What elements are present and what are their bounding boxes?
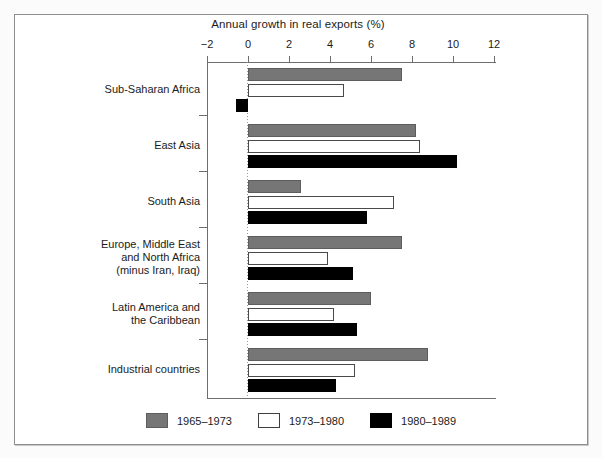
category-label: Sub-Saharan Africa (50, 83, 200, 96)
x-tick (289, 56, 290, 63)
x-tick-label: 2 (286, 38, 292, 50)
x-tick-label: 10 (447, 38, 459, 50)
plot-area: −2024681012 Sub-Saharan AfricaEast AsiaS… (0, 0, 602, 458)
chart-page: Annual growth in real exports (%) −20246… (0, 0, 602, 458)
category-label: South Asia (50, 195, 200, 208)
bar (248, 379, 336, 392)
legend-item: 1965–1973 (146, 413, 232, 428)
category-label: Europe, Middle East and North Africa (mi… (50, 238, 200, 277)
legend-item: 1980–1989 (370, 413, 456, 428)
bar (248, 84, 344, 97)
bar (248, 252, 328, 265)
x-tick (330, 56, 331, 63)
legend-swatch (146, 413, 168, 428)
bar (248, 267, 353, 280)
bar (248, 348, 428, 361)
category-label: Industrial countries (50, 363, 200, 376)
category-label: Latin America and the Caribbean (50, 301, 200, 327)
bar (248, 292, 371, 305)
bar (248, 180, 301, 193)
legend-item: 1973–1980 (258, 413, 344, 428)
x-tick-label: −2 (201, 38, 214, 50)
legend-label: 1980–1989 (401, 415, 456, 427)
legend-swatch (258, 413, 280, 428)
legend-label: 1965–1973 (177, 415, 232, 427)
category-separator-tick (199, 115, 208, 116)
x-tick-label: 8 (409, 38, 415, 50)
category-separator-tick (199, 283, 208, 284)
bar (248, 196, 394, 209)
x-tick-label: 12 (488, 38, 500, 50)
legend-label: 1973–1980 (289, 415, 344, 427)
x-tick (494, 56, 495, 63)
bar (248, 323, 357, 336)
x-tick-label: 0 (245, 38, 251, 50)
bar (248, 236, 402, 249)
bar (248, 308, 334, 321)
y-axis-line (207, 62, 208, 398)
x-tick (412, 56, 413, 63)
x-tick (453, 56, 454, 63)
category-separator-tick (199, 227, 208, 228)
category-label: East Asia (50, 139, 200, 152)
x-tick (248, 56, 249, 63)
plot-bottom-rule (207, 398, 496, 399)
bar (248, 140, 420, 153)
bar (248, 211, 367, 224)
bar (248, 124, 416, 137)
category-separator-tick (199, 339, 208, 340)
bar (236, 99, 248, 112)
bar (248, 364, 355, 377)
category-separator-tick (199, 171, 208, 172)
x-tick (207, 56, 208, 63)
x-tick-label: 6 (368, 38, 374, 50)
x-tick-label: 4 (327, 38, 333, 50)
bar (248, 68, 402, 81)
legend-swatch (370, 413, 392, 428)
x-tick (371, 56, 372, 63)
chart-legend: 1965–19731973–19801980–1989 (0, 413, 602, 428)
bar (248, 155, 457, 168)
